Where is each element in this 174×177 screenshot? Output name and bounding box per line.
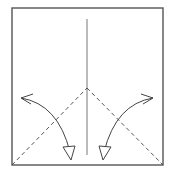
origami-diagram bbox=[0, 0, 174, 177]
paper-square bbox=[12, 8, 163, 165]
